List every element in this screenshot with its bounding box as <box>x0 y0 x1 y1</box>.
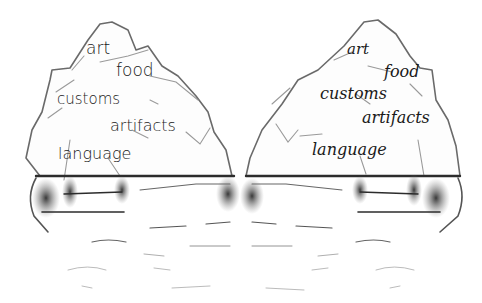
label-food-left: food <box>116 62 154 79</box>
label-art-left: art <box>86 40 110 57</box>
label-language-right: language <box>312 142 387 158</box>
label-art-right: art <box>347 42 369 57</box>
iceberg-drawing: art food customs artifacts language art … <box>0 0 482 303</box>
label-food-right: food <box>384 64 419 80</box>
label-artifacts-left: artifacts <box>110 118 176 134</box>
label-customs-right: customs <box>320 86 387 102</box>
left-iceberg-base <box>30 176 240 288</box>
label-artifacts-right: artifacts <box>362 110 430 126</box>
right-iceberg-base <box>240 174 462 290</box>
label-customs-left: customs <box>57 92 120 107</box>
label-language-left: language <box>58 146 131 162</box>
